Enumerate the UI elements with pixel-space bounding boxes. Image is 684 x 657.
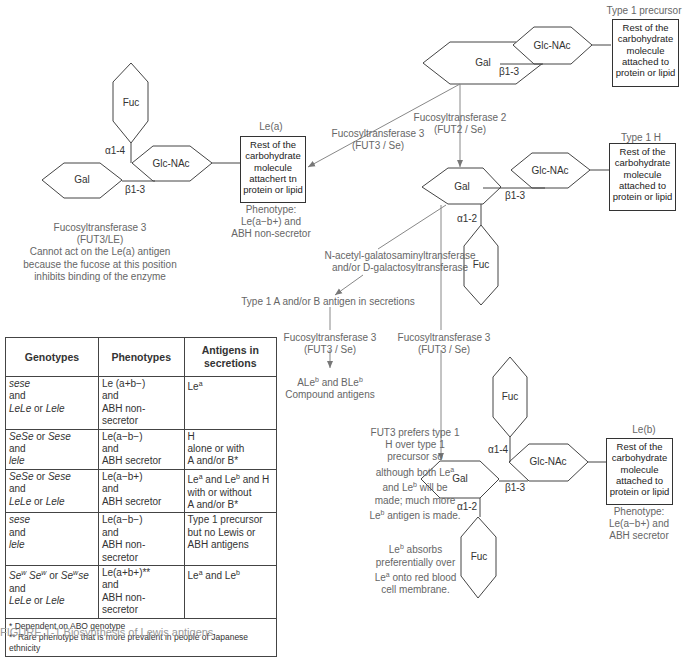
- table-row: sese and LeLe or Lele Le (a+b−)andABH no…: [6, 377, 277, 430]
- genotype-cell: SeSe or Sese and lele: [6, 429, 99, 469]
- table-row: SeSe or Sese and LeLe or Lele Le(a−b+)an…: [6, 469, 277, 513]
- table-header-row: Genotypes Phenotypes Antigens in secreti…: [6, 338, 277, 377]
- leb-label: Le(b): [604, 424, 684, 436]
- genotype-cell: sese and LeLe or Lele: [6, 377, 99, 430]
- compound-antigens-label: ALeb and BLeb Compound antigens: [280, 374, 380, 401]
- glcnac-label-precursor: Glc-NAc: [522, 40, 582, 52]
- figure-caption: FIGURE 1-1 Biosynthesis of Lewis antigen…: [0, 626, 213, 638]
- b13-label-leb: β1-3: [500, 482, 530, 494]
- type1-ab-label: Type 1 A and/or B antigen in secretions: [228, 296, 428, 308]
- galnac-enzyme-label: N-acetyl-galatosaminyltransferase and/or…: [290, 250, 510, 274]
- header-antigens: Antigens in secretions: [184, 338, 276, 377]
- antigens-cell: Type 1 precursorbut no Lewis orABH antig…: [184, 513, 276, 566]
- residue-box-lea: Rest of the carbohydrate molecule attach…: [240, 136, 306, 203]
- lewis-genotype-table: Genotypes Phenotypes Antigens in secreti…: [5, 337, 277, 657]
- phenotype-cell: Le(a−b−)andABH secretor: [98, 429, 184, 469]
- gal-label-type1h: Gal: [437, 181, 487, 193]
- header-phenotypes: Phenotypes: [98, 338, 184, 377]
- antigens-cell: Lea and Leb and H with or without A and/…: [184, 469, 276, 513]
- header-genotypes: Genotypes: [6, 338, 99, 377]
- table-row: SeSe or Sese and lele Le(a−b−)andABH sec…: [6, 429, 277, 469]
- fut3-secretions-enzyme-label: Fucosyltransferase 3 (FUT3 / Se): [275, 332, 385, 356]
- phenotype-cell: Le(a−b−)andABH non-secretor: [98, 513, 184, 566]
- antigens-cell: Lea and Leb: [184, 566, 276, 619]
- glcnac-label-lea: Glc-NAc: [141, 158, 201, 170]
- a14-label-lea: α1-4: [100, 145, 130, 157]
- residue-box-precursor: Rest of the carbohydrate molecule attach…: [612, 19, 679, 87]
- fuc-label-lea: Fuc: [106, 97, 156, 109]
- phenotype-cell: Le (a+b−)andABH non-secretor: [98, 377, 184, 430]
- genotype-cell: Sew Sew or Sewse and LeLe or Lele: [6, 566, 99, 619]
- fut3-preference-note: FUT3 prefers type 1 H over type 1 precur…: [355, 427, 475, 522]
- glcnac-label-type1h: Glc-NAc: [520, 165, 580, 177]
- residue-box-leb: Rest of the carbohydrate molecule attach…: [606, 438, 673, 505]
- fuc-label-leb-a14: Fuc: [485, 391, 535, 403]
- leb-phenotype: Phenotype: Le(a−b+) and ABH secretor: [596, 506, 682, 543]
- b13-label-lea: β1-3: [120, 184, 150, 196]
- leb-absorption-note: Leb absorbs preferentially over Lea onto…: [358, 541, 473, 596]
- a14-label-leb: α1-4: [483, 444, 513, 456]
- b13-label-precursor: β1-3: [494, 66, 524, 78]
- b13-label-type1h: β1-3: [500, 190, 530, 202]
- lea-label: Le(a): [236, 121, 306, 133]
- fut2-enzyme-label: Fucosyltransferase 2 (FUT2 / Se): [400, 112, 520, 136]
- genotype-cell: SeSe or Sese and LeLe or Lele: [6, 469, 99, 513]
- genotype-cell: sese and lele: [6, 513, 99, 566]
- fut3-leb-enzyme-label: Fucosyltransferase 3 (FUT3 / Se): [389, 332, 499, 356]
- antigens-cell: Halone or withA and/or B*: [184, 429, 276, 469]
- table-row: Sew Sew or Sewse and LeLe or Lele Le(a+b…: [6, 566, 277, 619]
- antigens-cell: Lea: [184, 377, 276, 430]
- a12-label-type1h: α1-2: [452, 213, 482, 225]
- glcnac-label-leb: Glc-NAc: [518, 456, 578, 468]
- lea-phenotype: Phenotype: Le(a−b+) and ABH non-secretor: [228, 204, 314, 241]
- residue-box-type1h: Rest of the carbohydrate molecule attach…: [609, 143, 676, 211]
- gal-label-lea: Gal: [57, 174, 107, 186]
- phenotype-cell: Le(a−b+)andABH secretor: [98, 469, 184, 513]
- fut3-le-note: Fucosyltransferase 3 (FUT3/LE) Cannot ac…: [15, 222, 185, 283]
- phenotype-cell: Le(a+b+)**andABH non-secretor: [98, 566, 184, 619]
- type1-precursor-label: Type 1 precursor: [604, 5, 684, 17]
- table-row: sese and lele Le(a−b−)andABH non-secreto…: [6, 513, 277, 566]
